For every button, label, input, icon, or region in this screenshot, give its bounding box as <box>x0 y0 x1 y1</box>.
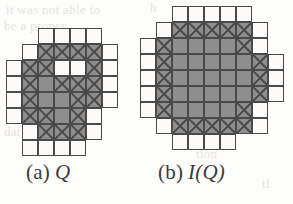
grid-cell-empty <box>54 140 70 156</box>
grid-cell-cross <box>86 76 102 92</box>
grid-cell-filled <box>54 92 70 108</box>
grid-cell-filled <box>172 38 188 54</box>
grid-cell-cross <box>236 22 252 38</box>
grid-cell-cross <box>156 70 172 86</box>
grid-cell-empty <box>268 70 284 86</box>
grid-cell-empty <box>102 60 118 76</box>
grid-cell-cross <box>220 22 236 38</box>
caption-q-symbol: Q <box>50 160 70 184</box>
pixel-grid <box>140 6 284 150</box>
grid-cell-cross <box>204 118 220 134</box>
grid-cell-cross <box>38 108 54 124</box>
grid-cell-cross <box>236 102 252 118</box>
grid-cell-empty <box>6 60 22 76</box>
grid-cell-empty <box>86 108 102 124</box>
grid-cell-filled <box>204 38 220 54</box>
grid-cell-cross <box>220 118 236 134</box>
grid-cell-empty <box>140 102 156 118</box>
grid-cell-cross <box>70 44 86 60</box>
grid-cell-cross <box>54 76 70 92</box>
grid-cell-empty <box>252 22 268 38</box>
grid-cell-empty <box>252 102 268 118</box>
grid-cell-cross <box>204 22 220 38</box>
grid-cell-filled <box>204 86 220 102</box>
grid-cell-empty <box>140 38 156 54</box>
panel-iq <box>140 6 284 150</box>
grid-cell-filled <box>38 92 54 108</box>
grid-cell-cross <box>38 44 54 60</box>
grid-cell-cross <box>236 118 252 134</box>
figure-container: (a)Q (b)I(Q) <box>0 0 293 204</box>
grid-cell-filled <box>220 38 236 54</box>
grid-cell-cross <box>156 102 172 118</box>
grid-cell-empty <box>252 118 268 134</box>
grid-cell-empty <box>38 140 54 156</box>
grid-cell-cross <box>22 92 38 108</box>
grid-cell-filled <box>188 86 204 102</box>
grid-cell-cross <box>252 70 268 86</box>
grid-cell-empty <box>140 54 156 70</box>
grid-cell-empty <box>22 44 38 60</box>
grid-cell-empty <box>172 134 188 150</box>
grid-cell-filled <box>204 102 220 118</box>
panel-q <box>6 28 134 156</box>
grid-cell-empty <box>220 134 236 150</box>
grid-cell-cross <box>252 54 268 70</box>
grid-cell-cross <box>236 38 252 54</box>
grid-cell-empty <box>252 38 268 54</box>
grid-cell-empty <box>70 28 86 44</box>
grid-cell-cross <box>86 60 102 76</box>
grid-cell-empty <box>102 92 118 108</box>
grid-cell-filled <box>236 70 252 86</box>
grid-cell-empty <box>22 140 38 156</box>
grid-cell-cross <box>38 60 54 76</box>
grid-cell-cross <box>86 92 102 108</box>
grid-cell-cross <box>70 124 86 140</box>
caption-iq-prefix: (b) <box>158 160 183 184</box>
grid-cell-cross <box>70 108 86 124</box>
grid-cell-cross <box>38 124 54 140</box>
grid-cell-empty <box>156 22 172 38</box>
grid-cell-empty <box>70 60 86 76</box>
grid-cell-filled <box>188 38 204 54</box>
grid-cell-empty <box>54 60 70 76</box>
grid-cell-filled <box>54 108 70 124</box>
grid-cell-filled <box>188 102 204 118</box>
grid-cell-cross <box>252 86 268 102</box>
grid-cell-cross <box>172 22 188 38</box>
grid-cell-cross <box>86 44 102 60</box>
grid-cell-empty <box>102 44 118 60</box>
grid-cell-empty <box>204 134 220 150</box>
caption-iq-symbol: I(Q) <box>183 160 225 184</box>
grid-cell-cross <box>54 44 70 60</box>
grid-cell-cross <box>156 86 172 102</box>
grid-cell-empty <box>22 124 38 140</box>
grid-cell-filled <box>220 54 236 70</box>
grid-cell-empty <box>188 6 204 22</box>
grid-cell-filled <box>38 76 54 92</box>
grid-cell-filled <box>172 102 188 118</box>
grid-cell-empty <box>6 108 22 124</box>
grid-cell-empty <box>268 54 284 70</box>
grid-cell-cross <box>70 92 86 108</box>
grid-cell-cross <box>54 124 70 140</box>
grid-cell-cross <box>22 60 38 76</box>
grid-cell-filled <box>220 86 236 102</box>
grid-cell-cross <box>156 38 172 54</box>
pixel-grid <box>6 28 134 156</box>
grid-cell-empty <box>268 86 284 102</box>
caption-q-prefix: (a) <box>26 160 50 184</box>
grid-cell-filled <box>220 102 236 118</box>
grid-cell-empty <box>220 6 236 22</box>
grid-cell-empty <box>140 70 156 86</box>
grid-cell-empty <box>70 140 86 156</box>
grid-cell-cross <box>70 76 86 92</box>
grid-cell-empty <box>172 6 188 22</box>
grid-cell-filled <box>172 70 188 86</box>
grid-cell-filled <box>236 86 252 102</box>
grid-cell-empty <box>54 28 70 44</box>
caption-iq: (b)I(Q) <box>158 160 225 185</box>
grid-cell-empty <box>102 76 118 92</box>
grid-cell-filled <box>204 54 220 70</box>
grid-cell-empty <box>6 92 22 108</box>
